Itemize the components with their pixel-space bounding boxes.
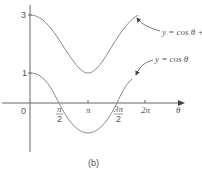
origin-label: 0 [21, 106, 26, 116]
x-tick-half-pi-num: π [57, 104, 62, 114]
series-label-lower: y = cos θ [154, 54, 189, 64]
x-axis-label: θ [176, 105, 181, 115]
curve-cos-plus-2 [30, 15, 138, 73]
series-label-upper: y = cos θ + 2 [161, 27, 202, 37]
y-tick-label-3: 3 [21, 10, 26, 20]
figure-caption: (b) [88, 158, 99, 168]
x-tick-half-pi-den: 2 [57, 114, 62, 124]
cosine-chart: 3 1 0 π 2 π 3π 2 2π θ y = cos θ + 2 y = … [0, 0, 202, 175]
y-tick-label-1: 1 [22, 68, 27, 78]
arrow-upper-label [137, 18, 160, 31]
x-tick-three-half-pi-den: 2 [116, 114, 121, 124]
arrow-lower-label [136, 60, 153, 75]
x-tick-three-half-pi-num: 3π [113, 104, 124, 114]
x-tick-two-pi: 2π [141, 105, 151, 115]
x-tick-pi: π [86, 105, 91, 115]
